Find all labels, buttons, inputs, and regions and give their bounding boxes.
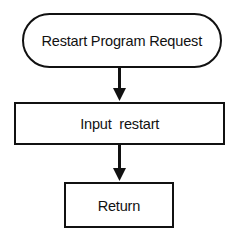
flow-node-process-input-restart[interactable]: Input restart: [14, 102, 225, 145]
flow-node-process-return[interactable]: Return: [64, 182, 174, 228]
flow-arrow-process-to-return: [113, 145, 126, 181]
flow-arrowhead-process-to-return: [113, 168, 126, 181]
flow-node-label-start: Restart Program Request: [42, 33, 203, 48]
flowchart-canvas: Restart Program Request Input restart Re…: [0, 0, 239, 236]
flow-node-label-return: Return: [98, 198, 141, 213]
flow-node-terminal-start[interactable]: Restart Program Request: [22, 13, 222, 68]
flow-arrowhead-start-to-process: [113, 88, 126, 101]
flow-node-label-process: Input restart: [80, 116, 159, 131]
flow-arrow-start-to-process: [113, 68, 126, 101]
